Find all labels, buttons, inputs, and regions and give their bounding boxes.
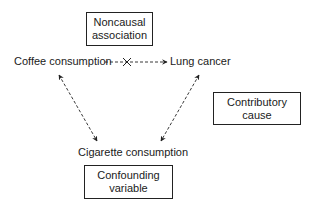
x-mark-icon bbox=[123, 58, 131, 66]
connectors bbox=[0, 0, 311, 206]
edge-coffee-to-lung-cancer bbox=[105, 58, 167, 66]
edge-cigarette-coffee bbox=[59, 75, 97, 141]
edge-cigarette-lung-cancer bbox=[161, 75, 199, 141]
